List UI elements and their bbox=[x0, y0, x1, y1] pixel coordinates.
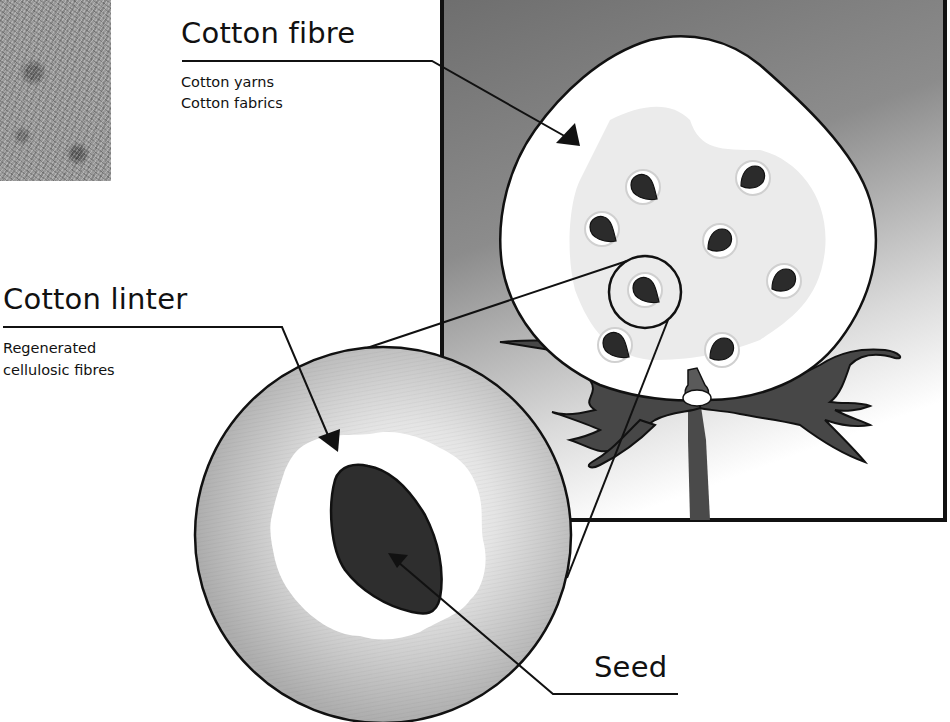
cotton-diagram bbox=[0, 0, 950, 722]
cotton-linter-heading: Cotton linter bbox=[3, 282, 187, 316]
seed-heading: Seed bbox=[594, 650, 667, 684]
cotton-linter-use-1: Regenerated bbox=[3, 338, 96, 359]
cotton-fibre-use-1: Cotton yarns bbox=[181, 72, 274, 93]
magnified-seed-view bbox=[195, 347, 571, 722]
cotton-linter-use-2: cellulosic fibres bbox=[3, 360, 115, 381]
cotton-fibre-heading: Cotton fibre bbox=[181, 16, 355, 50]
cotton-fibre-use-2: Cotton fabrics bbox=[181, 93, 283, 114]
